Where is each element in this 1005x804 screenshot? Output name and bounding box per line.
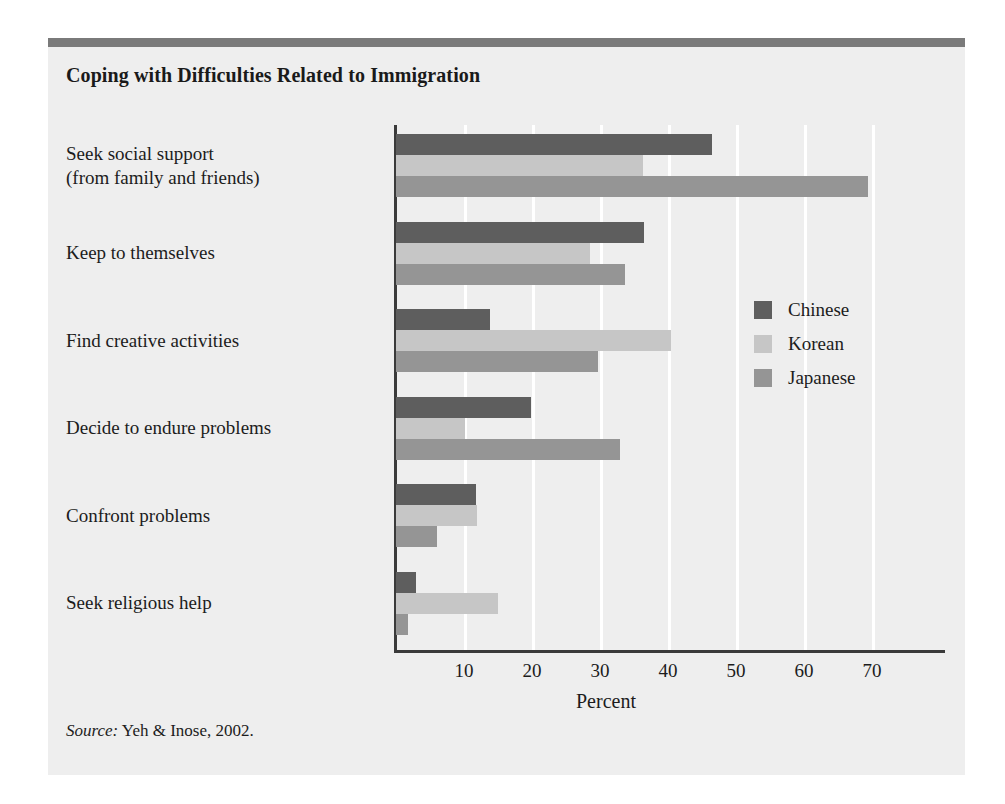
top-rule-decoration <box>48 38 965 47</box>
category-label-line: Seek religious help <box>66 591 391 615</box>
bar-japanese <box>396 351 598 372</box>
legend-label: Chinese <box>788 299 849 321</box>
page-title: Coping with Difficulties Related to Immi… <box>66 64 480 87</box>
bar-group <box>396 484 945 547</box>
category-axis-labels: Seek social support(from family and frie… <box>66 125 391 650</box>
category-label: Seek religious help <box>66 591 391 615</box>
legend-item: Chinese <box>754 293 934 327</box>
bar-korean <box>396 330 671 351</box>
x-tick-label: 20 <box>523 660 542 682</box>
source-note: Source: Yeh & Inose, 2002. <box>66 721 254 741</box>
bar-group <box>396 397 945 460</box>
legend-label: Japanese <box>788 367 856 389</box>
category-label-line: Keep to themselves <box>66 241 391 265</box>
bar-chinese <box>396 222 644 243</box>
bar-korean <box>396 418 465 439</box>
bar-chinese <box>396 484 476 505</box>
category-label: Seek social support(from family and frie… <box>66 142 391 190</box>
category-label: Find creative activities <box>66 329 391 353</box>
x-tick-label: 50 <box>727 660 746 682</box>
category-label-line: Confront problems <box>66 504 391 528</box>
source-citation: Yeh & Inose, 2002. <box>118 721 254 740</box>
legend-item: Korean <box>754 327 934 361</box>
x-axis-title: Percent <box>396 690 816 713</box>
x-axis-line <box>394 650 945 653</box>
bar-chinese <box>396 572 416 593</box>
legend-label: Korean <box>788 333 844 355</box>
bar-japanese <box>396 439 620 460</box>
category-label: Keep to themselves <box>66 241 391 265</box>
bar-japanese <box>396 614 408 635</box>
bar-group <box>396 134 945 197</box>
bar-korean <box>396 505 477 526</box>
bar-chinese <box>396 309 490 330</box>
legend-item: Japanese <box>754 361 934 395</box>
legend: ChineseKoreanJapanese <box>754 293 934 395</box>
category-label: Confront problems <box>66 504 391 528</box>
x-tick-label: 40 <box>659 660 678 682</box>
category-label-line: Decide to endure problems <box>66 416 391 440</box>
bar-korean <box>396 243 590 264</box>
x-tick-label: 10 <box>455 660 474 682</box>
x-tick-label: 30 <box>591 660 610 682</box>
bar-japanese <box>396 526 437 547</box>
x-tick-label: 70 <box>863 660 882 682</box>
legend-swatch-icon <box>754 369 772 387</box>
x-tick-label: 60 <box>795 660 814 682</box>
bar-japanese <box>396 264 625 285</box>
category-label-line: Find creative activities <box>66 329 391 353</box>
bar-korean <box>396 155 643 176</box>
bar-japanese <box>396 176 868 197</box>
bar-chinese <box>396 134 712 155</box>
bar-group <box>396 222 945 285</box>
legend-swatch-icon <box>754 301 772 319</box>
bar-chinese <box>396 397 531 418</box>
bar-korean <box>396 593 498 614</box>
x-axis-tick-labels: 10203040506070 <box>396 660 945 690</box>
legend-swatch-icon <box>754 335 772 353</box>
source-label: Source: <box>66 721 118 740</box>
category-label-line: Seek social support <box>66 142 391 166</box>
category-label-line: (from family and friends) <box>66 166 391 190</box>
figure-panel: Coping with Difficulties Related to Immi… <box>48 38 965 775</box>
bar-group <box>396 572 945 635</box>
category-label: Decide to endure problems <box>66 416 391 440</box>
